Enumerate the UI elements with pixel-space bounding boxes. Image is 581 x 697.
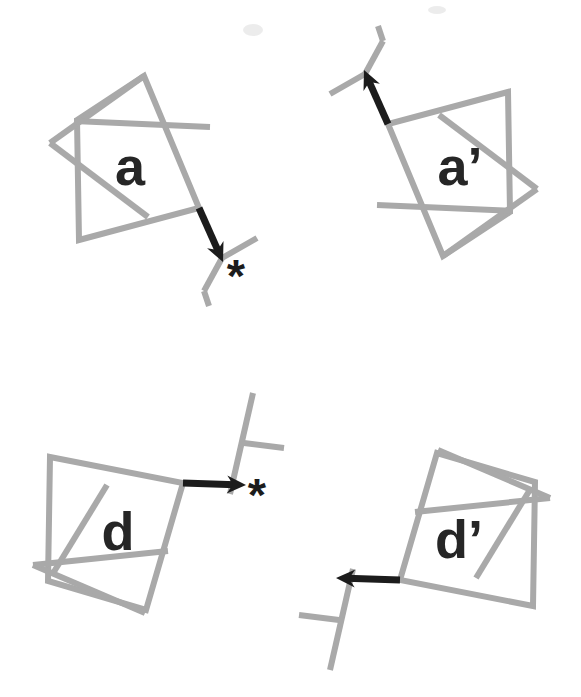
panel-a-branch-bond [204, 258, 222, 291]
panel-a-prime-bond [377, 205, 513, 211]
panel-a-branch-bond [204, 291, 209, 306]
panel-d-bond [33, 565, 145, 613]
panel-d-prime-label: d’ [435, 509, 483, 569]
panel-a-prime: a’ [330, 26, 537, 256]
panel-a-prime-bond [443, 189, 537, 256]
panel-a-prime-branch-bond [330, 74, 365, 94]
panel-a-label: a [115, 136, 146, 196]
panel-a-prime-branch-bond [365, 41, 383, 74]
panel-d-prime-arrow-shaft [347, 578, 400, 580]
panel-a-prime-arrow-shaft [368, 80, 388, 124]
panel-a-prime-label: a’ [437, 136, 482, 196]
panel-d-arrow-shaft [183, 483, 235, 485]
panel-a: a* [50, 76, 257, 306]
figure-canvas: a*a’d*d’ [0, 0, 581, 697]
panel-a-prime-branch-bond [378, 26, 383, 41]
panel-a-asterisk: * [227, 249, 246, 302]
panel-a-bond [74, 121, 210, 127]
panel-a-arrow-shaft [199, 208, 219, 252]
scan-smudge [243, 24, 263, 36]
panel-d-asterisk: * [248, 468, 267, 521]
panel-d-bond [33, 551, 168, 565]
panel-d-label: d [102, 501, 135, 561]
scan-smudge [428, 6, 446, 14]
panel-d-prime: d’ [299, 450, 550, 670]
panel-d: d* [33, 393, 284, 613]
panel-d-prime-bond [438, 450, 550, 498]
panel-a-bond [50, 76, 144, 143]
figure: a*a’d*d’ [0, 0, 581, 697]
panel-d-branch-bond [244, 443, 284, 448]
panel-d-prime-branch-bond [299, 615, 339, 620]
